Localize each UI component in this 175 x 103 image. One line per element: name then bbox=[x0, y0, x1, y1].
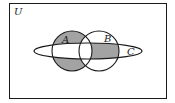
set-b-label: B bbox=[103, 33, 111, 44]
venn-diagram: U A B C bbox=[0, 0, 175, 103]
universe-label: U bbox=[14, 6, 23, 17]
set-c-label: C bbox=[127, 46, 135, 57]
set-a-label: A bbox=[61, 34, 69, 45]
